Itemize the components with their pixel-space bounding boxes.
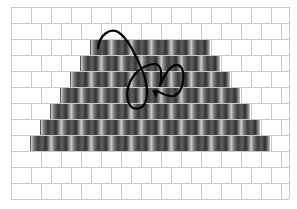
diagram-canvas — [0, 0, 297, 209]
shaded-brick — [61, 119, 81, 135]
shaded-brick — [151, 39, 171, 55]
shaded-brick — [181, 87, 201, 103]
shaded-brick — [71, 103, 91, 119]
shaded-brick — [81, 87, 101, 103]
shaded-brick — [191, 103, 211, 119]
shaded-brick — [241, 119, 260, 135]
shaded-brick — [201, 87, 221, 103]
shaded-brick — [151, 135, 171, 151]
shaded-brick — [101, 55, 121, 71]
shaded-brick — [31, 135, 51, 151]
shaded-brick — [81, 55, 101, 71]
shaded-brick — [181, 119, 201, 135]
shaded-brick — [171, 103, 191, 119]
shaded-brick — [51, 135, 71, 151]
shaded-brick — [171, 71, 191, 87]
shaded-brick — [131, 103, 151, 119]
shaded-brick — [231, 135, 251, 151]
shaded-brick — [201, 119, 221, 135]
shaded-brick — [111, 103, 131, 119]
shaded-brick — [30, 135, 31, 151]
shaded-brick — [81, 119, 101, 135]
shaded-brick — [41, 119, 61, 135]
shaded-brick — [91, 71, 111, 87]
shaded-brick — [141, 55, 161, 71]
shaded-brick — [101, 87, 121, 103]
shaded-brick — [191, 135, 211, 151]
shaded-brick — [60, 87, 61, 103]
shaded-brick — [231, 103, 250, 119]
shaded-brick — [71, 135, 91, 151]
shaded-brick — [111, 135, 131, 151]
shaded-brick — [141, 87, 161, 103]
shaded-brick — [191, 39, 210, 55]
shaded-brick — [181, 55, 201, 71]
shaded-brick — [70, 71, 71, 87]
shaded-brick — [151, 103, 171, 119]
shaded-brick — [50, 103, 51, 119]
shaded-brick — [121, 87, 141, 103]
shaded-brick — [171, 135, 191, 151]
brick-grid — [11, 7, 290, 200]
shaded-brick — [211, 71, 230, 87]
shaded-brick — [90, 39, 91, 55]
shaded-brick — [211, 103, 231, 119]
shaded-brick — [61, 87, 81, 103]
shaded-brick — [71, 71, 91, 87]
shaded-brick — [131, 71, 151, 87]
shaded-brick — [171, 39, 191, 55]
shaded-brick — [251, 135, 270, 151]
shaded-brick — [80, 55, 81, 71]
shaded-brick — [131, 135, 151, 151]
shaded-brick — [51, 103, 71, 119]
shaded-brick — [91, 39, 111, 55]
shaded-brick — [221, 119, 241, 135]
shaded-brick — [141, 119, 161, 135]
brick-pyramid-diagram — [0, 0, 297, 209]
shaded-brick — [101, 119, 121, 135]
shaded-brick — [191, 71, 211, 87]
shaded-brick — [91, 103, 111, 119]
shaded-brick — [40, 119, 41, 135]
shaded-brick — [91, 135, 111, 151]
shaded-brick — [201, 55, 220, 71]
shaded-brick — [121, 119, 141, 135]
shaded-brick — [221, 87, 240, 103]
shaded-brick — [161, 119, 181, 135]
shaded-brick — [211, 135, 231, 151]
